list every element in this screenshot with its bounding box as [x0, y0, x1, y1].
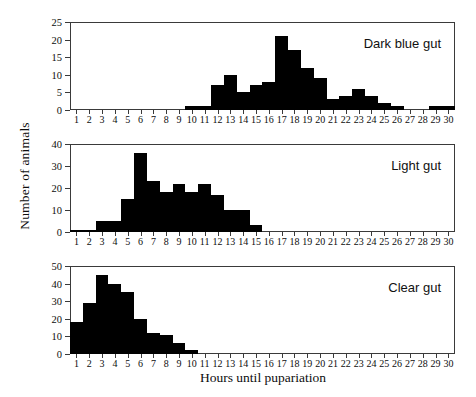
x-tick-label: 17 — [277, 359, 287, 369]
x-tick-label: 28 — [418, 359, 428, 369]
y-tick: 40 — [65, 144, 70, 145]
x-tick-cell: 13 — [224, 232, 237, 252]
x-tick-cell: 12 — [211, 110, 224, 130]
x-tick-label: 15 — [251, 359, 261, 369]
x-tick-label: 16 — [264, 237, 274, 247]
x-tick-label: 26 — [392, 237, 402, 247]
x-tick-label: 16 — [264, 115, 274, 125]
x-tick-label: 25 — [379, 237, 389, 247]
x-tick-label: 18 — [289, 359, 299, 369]
x-tick-cell: 22 — [339, 110, 352, 130]
x-tick-cell: 28 — [416, 110, 429, 130]
x-tick-cell: 24 — [365, 110, 378, 130]
x-tick-label: 3 — [100, 115, 105, 125]
panel-caption: Light gut — [391, 158, 441, 173]
x-tick-label: 9 — [177, 359, 182, 369]
x-tick-label: 13 — [225, 115, 235, 125]
x-tick-cell: 21 — [327, 232, 340, 252]
x-tick-label: 1 — [74, 359, 79, 369]
x-tick-label: 17 — [277, 237, 287, 247]
y-tick-label: 30 — [52, 162, 63, 173]
x-tick-label: 11 — [200, 115, 210, 125]
x-tick-label: 8 — [164, 359, 169, 369]
x-tick-label: 5 — [125, 115, 130, 125]
x-tick-label: 21 — [328, 237, 338, 247]
x-tick-cell: 4 — [108, 232, 121, 252]
x-tick-label: 30 — [443, 237, 453, 247]
x-tick-label: 7 — [151, 115, 156, 125]
x-tick-label: 2 — [87, 237, 92, 247]
x-tick-label: 2 — [87, 115, 92, 125]
x-tick-cell: 25 — [378, 232, 391, 252]
y-tick: 25 — [65, 22, 70, 23]
x-tick-cell: 10 — [185, 110, 198, 130]
x-tick-label: 21 — [328, 115, 338, 125]
x-tick-label: 24 — [366, 359, 376, 369]
histogram-figure: Number of animals 0510152025 12345678910… — [0, 0, 476, 397]
x-tick-label: 14 — [238, 359, 248, 369]
x-tick-label: 7 — [151, 237, 156, 247]
x-axis-title: Hours until pupariation — [70, 370, 456, 386]
y-tick-label: 30 — [52, 297, 63, 308]
y-tick: 30 — [65, 166, 70, 167]
x-tick-label: 21 — [328, 359, 338, 369]
x-tick-cell: 11 — [198, 232, 211, 252]
x-tick-cell: 12 — [211, 232, 224, 252]
x-tick-label: 28 — [418, 237, 428, 247]
x-axis-ticks: 1234567891011121314151617181920212223242… — [70, 232, 455, 252]
x-tick-cell: 9 — [173, 110, 186, 130]
x-tick-label: 18 — [289, 115, 299, 125]
x-tick-label: 5 — [125, 359, 130, 369]
y-tick-label: 40 — [52, 279, 63, 290]
x-tick-cell: 8 — [160, 232, 173, 252]
x-tick-label: 23 — [354, 115, 364, 125]
x-tick-label: 10 — [187, 115, 197, 125]
x-tick-cell: 18 — [288, 110, 301, 130]
x-tick-label: 18 — [289, 237, 299, 247]
x-tick-cell: 13 — [224, 110, 237, 130]
x-tick-label: 15 — [251, 237, 261, 247]
y-tick-label: 40 — [52, 140, 63, 151]
panel-clear-gut: 01020304050 1234567891011121314151617181… — [70, 266, 455, 354]
x-tick-cell: 6 — [134, 232, 147, 252]
x-tick-cell: 24 — [365, 232, 378, 252]
x-tick-label: 19 — [302, 359, 312, 369]
y-tick-label: 0 — [57, 106, 62, 117]
x-tick-label: 13 — [225, 359, 235, 369]
x-tick-label: 22 — [341, 237, 351, 247]
x-tick-label: 20 — [315, 237, 325, 247]
y-tick-label: 0 — [57, 228, 62, 239]
y-tick: 30 — [65, 301, 70, 302]
x-tick-cell: 7 — [147, 232, 160, 252]
x-tick-cell: 8 — [160, 110, 173, 130]
x-tick-label: 26 — [392, 359, 402, 369]
x-tick-label: 30 — [443, 359, 453, 369]
y-axis-title: Number of animals — [17, 96, 33, 256]
x-tick-cell: 16 — [262, 110, 275, 130]
x-tick-cell: 27 — [404, 110, 417, 130]
x-tick-cell: 2 — [83, 110, 96, 130]
x-tick-cell: 25 — [378, 110, 391, 130]
y-tick-label: 10 — [52, 71, 63, 82]
x-tick-cell: 7 — [147, 110, 160, 130]
x-tick-label: 20 — [315, 115, 325, 125]
x-tick-cell: 9 — [173, 232, 186, 252]
x-tick-cell: 6 — [134, 110, 147, 130]
x-tick-cell: 1 — [70, 232, 83, 252]
y-tick-label: 20 — [52, 315, 63, 326]
x-tick-label: 27 — [405, 359, 415, 369]
y-tick-label: 25 — [52, 18, 63, 29]
x-tick-label: 1 — [74, 237, 79, 247]
x-tick-label: 9 — [177, 115, 182, 125]
y-tick: 20 — [65, 188, 70, 189]
x-tick-label: 28 — [418, 115, 428, 125]
x-tick-cell: 21 — [327, 110, 340, 130]
x-tick-cell: 29 — [429, 232, 442, 252]
y-tick-label: 0 — [57, 350, 62, 361]
x-tick-cell: 17 — [275, 232, 288, 252]
panel-light-gut: 010203040 123456789101112131415161718192… — [70, 144, 455, 232]
x-tick-cell: 2 — [83, 232, 96, 252]
x-tick-cell: 30 — [442, 110, 455, 130]
x-tick-cell: 14 — [237, 110, 250, 130]
x-tick-label: 10 — [187, 237, 197, 247]
